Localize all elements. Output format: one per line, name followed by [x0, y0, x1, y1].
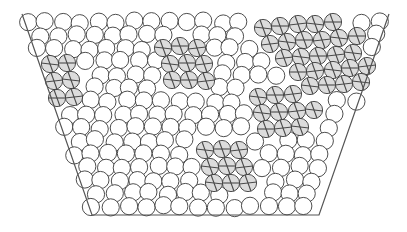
- grain-circle: [155, 197, 172, 214]
- grain-circle: [295, 197, 312, 214]
- grain-circle: [227, 79, 244, 96]
- grain-circle: [241, 197, 258, 214]
- grain-circle: [197, 118, 214, 135]
- grain-circle: [46, 40, 63, 57]
- grain-circle: [278, 198, 295, 215]
- grain-circle: [56, 118, 73, 135]
- grain-circle: [77, 52, 94, 69]
- grain-circle: [150, 157, 167, 174]
- grain-circle: [76, 171, 93, 188]
- grain-circle: [144, 118, 161, 135]
- grain-circle: [28, 39, 45, 56]
- grain-circle: [127, 118, 144, 135]
- grain-circle: [140, 183, 157, 200]
- grain-circle: [68, 26, 85, 43]
- grain-circle: [190, 199, 207, 216]
- upper-center-cluster: [154, 37, 215, 89]
- grain-circle: [178, 13, 195, 30]
- grain-circle: [207, 199, 224, 216]
- grain-circle: [232, 118, 249, 135]
- lower-center-cluster: [196, 140, 257, 191]
- grain-circle: [250, 66, 267, 83]
- grain-circle: [96, 52, 113, 69]
- grain-circle: [139, 25, 156, 42]
- grain-circle: [226, 200, 243, 217]
- grain-circle: [121, 198, 138, 215]
- grain-circle: [138, 199, 155, 216]
- grain-circle: [221, 39, 238, 56]
- grain-circle: [260, 198, 277, 215]
- grain-circle: [171, 198, 188, 215]
- grain-circle: [119, 91, 136, 108]
- grain-circle: [176, 131, 193, 148]
- grain-circle: [82, 91, 99, 108]
- grain-circle: [100, 144, 117, 161]
- grain-circle: [36, 13, 53, 30]
- grain-circle: [112, 51, 129, 68]
- grain-circle: [215, 120, 232, 137]
- grain-packing-diagram: [0, 0, 407, 232]
- grain-circle: [253, 160, 270, 177]
- grain-circle: [268, 67, 285, 84]
- grain-circle: [102, 199, 119, 216]
